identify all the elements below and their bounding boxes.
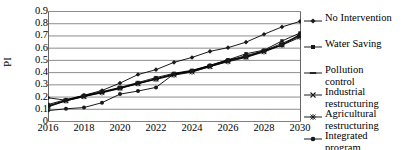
data-point-marker — [118, 92, 122, 96]
data-point-marker — [280, 43, 284, 47]
y-tick-label: 0.5 — [35, 55, 48, 65]
legend-item-5[interactable]: Agricultural restructuring — [303, 108, 379, 131]
data-point-marker — [280, 39, 283, 42]
x-axis-tick-labels: 20162018202020222024202620282030 — [48, 122, 300, 144]
data-point-marker — [226, 45, 231, 50]
plot-area — [48, 11, 300, 121]
data-point-marker — [190, 69, 194, 73]
data-point-marker — [298, 19, 301, 24]
data-point-marker — [100, 101, 104, 105]
x-tick-label: 2028 — [254, 122, 275, 134]
y-tick-label: 0.4 — [35, 67, 48, 77]
circle-marker-icon — [303, 131, 323, 143]
data-point-marker — [63, 98, 68, 103]
data-point-marker — [153, 77, 158, 82]
y-axis-title: PI — [1, 57, 13, 67]
data-point-marker — [117, 86, 122, 91]
data-point-marker — [154, 85, 158, 89]
x-tick-label: 2018 — [74, 122, 95, 134]
data-point-marker — [208, 49, 213, 54]
data-point-marker — [81, 94, 86, 99]
x-tick-label: 2020 — [110, 122, 131, 134]
data-point-marker — [172, 72, 176, 76]
y-tick-label: 0.2 — [35, 92, 48, 102]
legend-item-1[interactable]: No Intervention — [303, 12, 392, 25]
data-point-marker — [136, 89, 140, 93]
square-marker-icon — [303, 39, 323, 51]
legend-label: Agricultural restructuring — [325, 108, 379, 131]
y-tick-label: 0.9 — [35, 6, 48, 16]
data-point-marker — [48, 95, 50, 100]
star-marker-icon — [303, 109, 323, 121]
data-point-marker — [154, 67, 159, 72]
legend-item-4[interactable]: Industrial restructuring — [303, 86, 379, 109]
data-point-marker — [82, 106, 86, 110]
diamond-marker-icon — [303, 13, 323, 25]
y-tick-label: 0.6 — [35, 43, 48, 53]
data-point-marker — [64, 107, 68, 111]
data-point-marker — [244, 40, 249, 45]
legend-item-2[interactable]: Water Saving — [303, 38, 382, 51]
y-axis-tick-labels: 00.10.20.30.40.50.60.70.80.9 — [18, 6, 48, 126]
legend-label: Industrial restructuring — [325, 86, 379, 109]
y-tick-label: 0.3 — [35, 79, 48, 89]
y-tick-label: 0.8 — [35, 18, 48, 28]
data-point-marker — [99, 90, 104, 95]
legend-item-3[interactable]: Pollution control — [303, 64, 364, 87]
data-point-marker — [262, 49, 266, 53]
x-tick-label: 2022 — [146, 122, 167, 134]
y-tick-label: 0.1 — [35, 104, 48, 114]
x-tick-label: 2024 — [182, 122, 203, 134]
x-tick-label: 2026 — [218, 122, 239, 134]
series-line — [48, 33, 300, 105]
legend-item-6[interactable]: Integrated program — [303, 130, 368, 150]
legend-label: Integrated program — [325, 130, 368, 150]
data-point-marker — [226, 58, 230, 62]
chart-canvas — [48, 11, 301, 122]
chart-legend: No InterventionWater SavingPollution con… — [303, 6, 403, 148]
data-point-marker — [135, 81, 140, 86]
data-point-marker — [244, 55, 248, 59]
x-marker-icon — [303, 87, 323, 99]
x-tick-label: 2016 — [38, 122, 59, 134]
data-point-marker — [280, 25, 285, 30]
dash-marker-icon — [303, 65, 323, 77]
chart-figure: PI 00.10.20.30.40.50.60.70.80.9 20162018… — [0, 0, 403, 150]
data-point-marker — [208, 63, 212, 67]
legend-label: No Intervention — [325, 12, 392, 24]
y-tick-label: 0.7 — [35, 30, 48, 40]
legend-label: Pollution control — [325, 64, 364, 87]
legend-label: Water Saving — [325, 38, 382, 50]
data-point-marker — [190, 55, 195, 60]
